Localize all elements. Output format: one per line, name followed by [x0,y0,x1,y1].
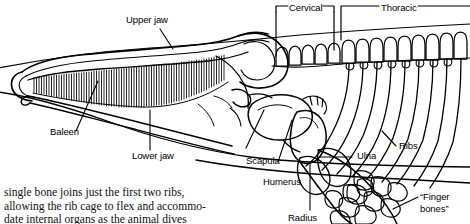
label-thoracic: Thoracic [381,2,417,13]
label-ribs: Ribs [399,140,418,151]
label-ulna: Ulna [357,150,376,161]
label-finger-bones-line1: “Finger [420,191,449,202]
label-scapula: Scapula [246,155,280,166]
label-lower-jaw: Lower jaw [132,150,174,161]
label-radius: Radius [288,212,317,223]
body-text-line-2: allowing the rib cage to flex and accomm… [4,200,228,214]
body-text-line-1: single bone joins just the first two rib… [4,186,228,200]
label-cervical: Cervical [289,2,323,13]
body-text-column: single bone joins just the first two rib… [4,186,228,224]
label-baleen: Baleen [50,126,79,137]
label-finger-bones: “Finger bones” [420,191,466,214]
label-humerus: Humerus [263,176,301,187]
body-text-line-3: date internal organs as the animal dives [4,213,228,224]
label-finger-bones-line2: bones” [420,203,448,214]
label-upper-jaw: Upper jaw [126,14,168,25]
